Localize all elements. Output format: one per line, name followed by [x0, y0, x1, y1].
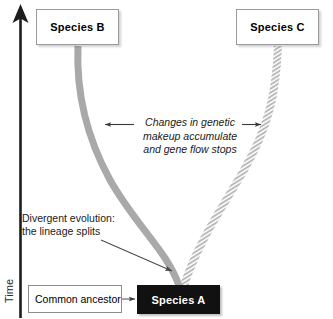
time-axis-label: Time: [3, 271, 15, 311]
lineage-species-c: [184, 46, 278, 286]
node-species-c-label: Species C: [250, 21, 304, 33]
node-common-ancestor[interactable]: Common ancestor: [28, 285, 122, 313]
node-species-c[interactable]: Species C: [236, 9, 319, 45]
annotation-divergent-evolution: Divergent evolution: the lineage splits: [22, 212, 115, 238]
node-common-ancestor-label: Common ancestor: [35, 293, 121, 305]
node-species-b-label: Species B: [50, 21, 104, 33]
node-species-a[interactable]: Species A: [137, 285, 220, 314]
lineage-species-b: [78, 46, 179, 286]
annotation-genetic-changes: Changes in genetic makeup accumulate and…: [137, 116, 243, 157]
node-species-b[interactable]: Species B: [36, 9, 119, 45]
node-species-a-label: Species A: [152, 294, 206, 306]
diagram-vector-layer: [0, 0, 333, 319]
diagram-canvas: Species B Species C Species A Common anc…: [0, 0, 333, 319]
